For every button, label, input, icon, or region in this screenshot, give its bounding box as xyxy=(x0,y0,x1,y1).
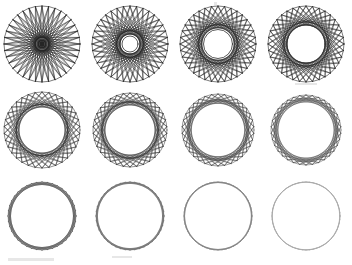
chord-envelope-grid xyxy=(0,0,352,265)
chord-envelope-panel xyxy=(271,95,341,165)
chord-envelope-panel xyxy=(268,6,344,82)
inner-envelope-circle xyxy=(11,185,74,248)
chord-bundle xyxy=(182,94,254,166)
chord-bundle xyxy=(92,6,168,82)
inner-envelope-circle xyxy=(204,30,233,59)
chord-envelope-panel xyxy=(4,92,80,168)
chord-envelope-panel xyxy=(8,182,76,250)
chord-envelope-panel xyxy=(93,93,167,167)
chord-envelope-panel xyxy=(96,182,164,250)
chord-path xyxy=(180,6,256,82)
chord-path xyxy=(182,94,254,166)
chord-envelope-panel xyxy=(92,6,168,82)
inner-envelope-circle xyxy=(122,36,138,52)
chord-path xyxy=(96,182,164,250)
center-convergence-dot xyxy=(39,41,45,47)
inner-envelope-circle xyxy=(102,102,159,159)
inner-envelope-circle xyxy=(185,183,252,250)
chord-bundle xyxy=(268,6,344,82)
outer-circle xyxy=(271,95,341,165)
inner-envelope-circle xyxy=(188,100,249,161)
chord-envelope-panel xyxy=(184,182,252,250)
chord-envelope-panel xyxy=(4,6,80,82)
chord-bundle xyxy=(93,93,167,167)
chord-bundle xyxy=(271,95,341,165)
chord-bundle xyxy=(8,182,76,250)
chord-bundle xyxy=(180,6,256,82)
chord-path xyxy=(92,6,168,82)
inner-envelope-circle xyxy=(272,182,340,250)
chord-bundle xyxy=(96,182,164,250)
inner-envelope-circle xyxy=(17,105,68,156)
chord-path xyxy=(4,92,80,168)
inner-envelope-circle xyxy=(97,183,162,248)
outer-circle xyxy=(92,6,168,82)
chord-envelope-panel xyxy=(182,94,254,166)
chord-path xyxy=(93,93,167,167)
inner-envelope-circle xyxy=(274,98,338,162)
chord-envelope-panel xyxy=(180,6,256,82)
chord-bundle xyxy=(4,92,80,168)
outer-circle xyxy=(8,182,76,250)
outer-circle xyxy=(182,94,254,166)
chord-path xyxy=(271,95,341,165)
figure-root xyxy=(0,0,352,265)
chord-envelope-panel xyxy=(272,182,340,250)
chord-path xyxy=(8,182,76,250)
inner-envelope-circle xyxy=(287,25,325,63)
chord-path xyxy=(268,6,344,82)
outer-circle xyxy=(180,6,256,82)
